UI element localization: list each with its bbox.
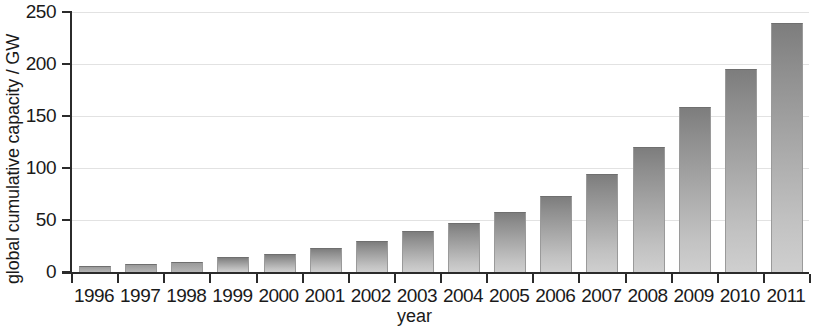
y-axis-tick bbox=[62, 115, 71, 117]
x-axis-tick bbox=[717, 274, 719, 283]
x-axis-tick bbox=[302, 274, 304, 283]
y-axis-tick-label: 100 bbox=[0, 158, 56, 177]
gridline bbox=[71, 12, 809, 13]
bar bbox=[540, 196, 572, 272]
y-axis-tick bbox=[62, 271, 71, 273]
y-axis-tick-label: 250 bbox=[0, 2, 56, 21]
x-axis-tick bbox=[163, 274, 165, 283]
x-axis-tick-label: 2004 bbox=[440, 285, 486, 307]
x-axis-tick-label: 2007 bbox=[578, 285, 624, 307]
bar bbox=[771, 23, 803, 272]
y-axis-tick bbox=[62, 167, 71, 169]
x-axis-tick-label: 1997 bbox=[117, 285, 163, 307]
x-axis-tick bbox=[625, 274, 627, 283]
bar bbox=[725, 69, 757, 272]
bar bbox=[448, 223, 480, 272]
x-axis-tick-label: 1996 bbox=[71, 285, 117, 307]
y-axis-tick-label: 200 bbox=[0, 54, 56, 73]
x-axis-tick bbox=[71, 274, 73, 283]
x-axis-tick-label: 2006 bbox=[532, 285, 578, 307]
x-axis-tick-label: 2000 bbox=[256, 285, 302, 307]
bar bbox=[679, 107, 711, 272]
x-axis-tick bbox=[763, 274, 765, 283]
x-axis-title: year bbox=[0, 306, 813, 327]
x-axis-tick-label: 2008 bbox=[625, 285, 671, 307]
x-axis-tick bbox=[578, 274, 580, 283]
bar bbox=[402, 231, 434, 272]
x-axis-tick-label: 1998 bbox=[163, 285, 209, 307]
y-axis-tick-label: 0 bbox=[0, 262, 56, 281]
x-axis-tick-label: 2003 bbox=[394, 285, 440, 307]
x-axis-tick bbox=[486, 274, 488, 283]
y-axis-tick-label: 50 bbox=[0, 210, 56, 229]
x-axis-tick bbox=[348, 274, 350, 283]
x-axis-tick bbox=[532, 274, 534, 283]
bar bbox=[125, 264, 157, 272]
bar bbox=[586, 174, 618, 272]
y-axis-tick bbox=[62, 11, 71, 13]
bar bbox=[264, 254, 296, 272]
x-axis-tick bbox=[809, 274, 811, 283]
bar bbox=[217, 257, 249, 272]
bar-chart: global cumulative capacity / GW 05010015… bbox=[0, 0, 813, 329]
x-axis-line bbox=[62, 272, 809, 274]
x-axis-tick bbox=[209, 274, 211, 283]
x-axis-tick bbox=[671, 274, 673, 283]
x-axis-tick-label: 2002 bbox=[348, 285, 394, 307]
x-axis-tick-label: 2011 bbox=[763, 285, 809, 307]
x-axis-title-label: year bbox=[381, 306, 432, 326]
bar bbox=[494, 212, 526, 272]
gridline bbox=[71, 64, 809, 65]
bar bbox=[310, 248, 342, 272]
y-axis-tick-label: 150 bbox=[0, 106, 56, 125]
y-axis-tick bbox=[62, 63, 71, 65]
x-axis-tick-label: 1999 bbox=[209, 285, 255, 307]
x-axis-tick bbox=[256, 274, 258, 283]
x-axis-tick bbox=[117, 274, 119, 283]
y-axis-tick bbox=[62, 219, 71, 221]
bar bbox=[633, 147, 665, 272]
plot-area bbox=[71, 12, 809, 272]
x-axis-tick bbox=[440, 274, 442, 283]
x-axis-tick-label: 2001 bbox=[302, 285, 348, 307]
x-axis-tick bbox=[394, 274, 396, 283]
bar bbox=[171, 262, 203, 272]
x-axis-tick-label: 2009 bbox=[671, 285, 717, 307]
x-axis-tick-label: 2005 bbox=[486, 285, 532, 307]
bar bbox=[356, 241, 388, 272]
y-axis-line bbox=[70, 11, 72, 273]
x-axis-tick-label: 2010 bbox=[717, 285, 763, 307]
